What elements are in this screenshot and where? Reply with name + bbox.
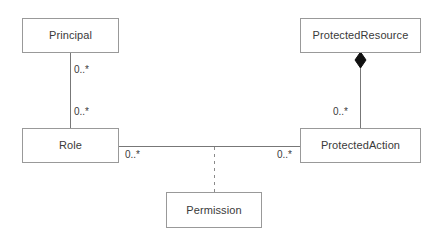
multiplicity-role-protected-action-left: 0..* [125, 150, 140, 160]
class-name-principal: Principal [49, 30, 92, 41]
multiplicity-principal-role-bottom: 0..* [74, 107, 89, 117]
class-box-protected-resource[interactable]: ProtectedResource [300, 18, 421, 53]
class-box-protected-action[interactable]: ProtectedAction [300, 128, 421, 163]
composition-diamond-icon [355, 52, 366, 68]
multiplicity-principal-role-top: 0..* [74, 65, 89, 75]
multiplicity-role-protected-action-right: 0..* [277, 150, 292, 160]
multiplicity-protected-resource-protected-action: 0..* [333, 107, 348, 117]
uml-diagram-canvas: Principal ProtectedResource Role Protect… [0, 0, 442, 239]
class-name-protected-resource: ProtectedResource [313, 30, 409, 41]
class-name-permission: Permission [186, 205, 241, 216]
class-name-protected-action: ProtectedAction [321, 140, 400, 151]
class-box-principal[interactable]: Principal [22, 18, 119, 53]
class-box-role[interactable]: Role [22, 128, 119, 163]
class-box-permission[interactable]: Permission [166, 192, 262, 228]
class-name-role: Role [59, 140, 82, 151]
